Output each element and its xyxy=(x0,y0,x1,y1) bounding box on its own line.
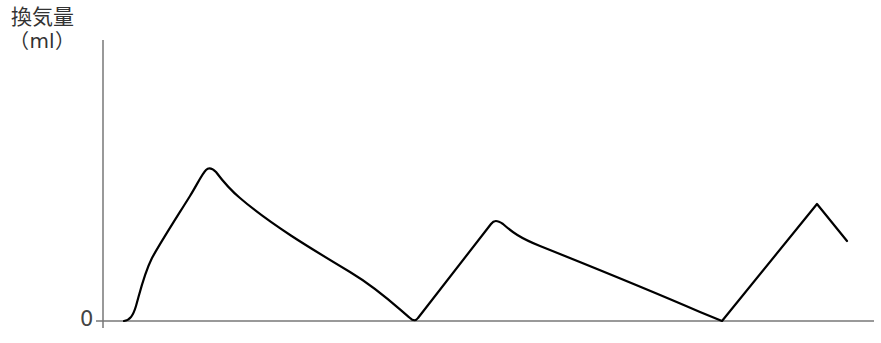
ventilation-waveform xyxy=(124,168,847,321)
chart-canvas xyxy=(0,0,881,343)
